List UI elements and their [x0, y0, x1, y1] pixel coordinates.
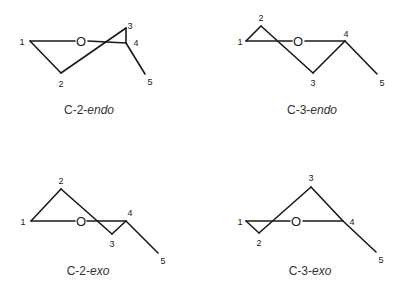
panel-c3-exo: O 1 2 3 4 5 C-3-exo: [237, 173, 383, 278]
bond-c3-c4: [313, 41, 345, 73]
panel-c2-endo: O 1 2 3 4 5 C-2-endo: [19, 21, 152, 117]
ring-oxygen: O: [291, 214, 301, 229]
caption-prefix: C-2-: [64, 103, 87, 117]
ring-bonds: [30, 28, 145, 74]
bond-c2-c3: [261, 26, 313, 73]
caption-c3-endo: C-3-endo: [287, 103, 337, 117]
atom-label-1: 1: [19, 37, 24, 47]
caption-italic: exo: [312, 264, 332, 278]
atom-label-4: 4: [343, 29, 348, 39]
bond-c4-c5: [343, 221, 376, 252]
caption-italic: exo: [90, 264, 110, 278]
atom-label-4: 4: [127, 208, 132, 218]
bond-c3-c4: [112, 221, 126, 234]
bond-c2-c3: [61, 189, 112, 234]
caption-prefix: C-3-: [289, 264, 312, 278]
caption-c2-endo: C-2-endo: [64, 103, 114, 117]
bond-c2-c3: [61, 28, 126, 73]
ring-bonds: [31, 189, 158, 253]
atom-label-2: 2: [256, 238, 261, 248]
atom-label-1: 1: [237, 217, 242, 227]
bond-c1-c2: [30, 41, 61, 73]
ring-oxygen: O: [76, 34, 86, 49]
atom-label-3: 3: [310, 78, 315, 88]
ring-oxygen: O: [76, 214, 86, 229]
atom-label-2: 2: [258, 13, 263, 23]
atom-label-5: 5: [378, 255, 383, 265]
caption-c3-exo: C-3-exo: [289, 264, 332, 278]
atom-label-2: 2: [58, 79, 63, 89]
bond-c1-c2: [246, 221, 259, 233]
ring-bonds: [246, 187, 376, 252]
atom-label-5: 5: [160, 256, 165, 266]
atom-label-1: 1: [20, 217, 25, 227]
bond-c1-c2: [31, 189, 61, 221]
bond-c4-c5: [126, 221, 158, 253]
panel-c3-endo: O 1 2 3 4 5 C-3-endo: [237, 13, 384, 117]
panel-c2-exo: O 1 2 3 4 5 C-2-exo: [20, 176, 165, 278]
bond-c4-c5: [345, 41, 377, 74]
ring-bonds: [246, 26, 377, 74]
bond-c3-c4: [311, 187, 343, 221]
caption-prefix: C-3-: [287, 103, 310, 117]
caption-prefix: C-2-: [67, 264, 90, 278]
atom-label-3: 3: [308, 173, 313, 183]
atom-label-2: 2: [58, 176, 63, 186]
caption-italic: endo: [310, 103, 337, 117]
atom-label-5: 5: [147, 77, 152, 87]
bond-c1-c2: [246, 26, 261, 41]
bond-c2-c3: [259, 187, 311, 233]
caption-italic: endo: [87, 103, 114, 117]
atom-label-1: 1: [237, 37, 242, 47]
atom-label-4: 4: [133, 38, 138, 48]
ring-oxygen: O: [293, 34, 303, 49]
sugar-pucker-diagram: O 1 2 3 4 5 C-2-endo O 1 2 3 4 5 C-3-end…: [0, 0, 401, 284]
atom-label-4: 4: [349, 217, 354, 227]
atom-label-3: 3: [109, 239, 114, 249]
atom-label-5: 5: [379, 78, 384, 88]
caption-c2-exo: C-2-exo: [67, 264, 110, 278]
atom-label-3: 3: [127, 21, 132, 31]
